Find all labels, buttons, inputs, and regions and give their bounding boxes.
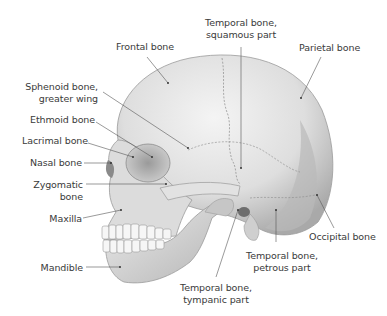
label-temporal-squamous: Temporal bone, squamous part bbox=[200, 17, 282, 40]
label-line: Temporal bone, bbox=[200, 17, 282, 29]
label-nasal-bone: Nasal bone bbox=[20, 157, 82, 169]
label-line: Temporal bone, bbox=[176, 282, 256, 294]
label-lacrimal-bone: Lacrimal bone bbox=[22, 135, 88, 147]
label-parietal-bone: Parietal bone bbox=[299, 42, 360, 54]
label-line: tympanic part bbox=[176, 294, 256, 306]
skull-diagram: Frontal bone Temporal bone, squamous par… bbox=[0, 0, 387, 316]
label-line: Temporal bone, bbox=[242, 250, 322, 262]
label-line: petrous part bbox=[242, 262, 322, 274]
label-line: greater wing bbox=[16, 93, 98, 105]
teeth bbox=[102, 224, 171, 253]
label-line: Zygomatic bbox=[20, 179, 83, 191]
label-line: bone bbox=[20, 191, 83, 203]
label-line: squamous part bbox=[200, 29, 282, 41]
label-frontal-bone: Frontal bone bbox=[116, 41, 174, 53]
orbit bbox=[126, 144, 170, 182]
label-line: Sphenoid bone, bbox=[16, 81, 98, 93]
label-ethmoid-bone: Ethmoid bone bbox=[30, 114, 95, 126]
label-mandible: Mandible bbox=[20, 262, 83, 274]
label-maxilla: Maxilla bbox=[20, 213, 82, 225]
label-temporal-petrous: Temporal bone, petrous part bbox=[242, 250, 322, 273]
label-temporal-tympanic: Temporal bone, tympanic part bbox=[176, 282, 256, 305]
label-sphenoid-greater-wing: Sphenoid bone, greater wing bbox=[16, 81, 98, 104]
label-occipital-bone: Occipital bone bbox=[309, 231, 376, 243]
label-zygomatic-bone: Zygomatic bone bbox=[20, 179, 83, 202]
